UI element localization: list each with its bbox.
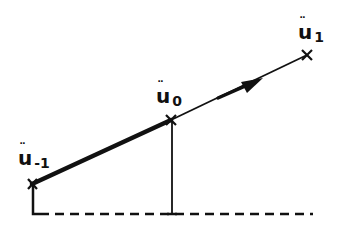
thick-segment-u-minus-1-to-u-0 (32, 120, 171, 184)
extrapolation-diagram (0, 0, 340, 252)
vertical-line-u-minus-1 (33, 186, 40, 214)
arrowhead-icon (241, 78, 263, 93)
cross-marker-u-1 (302, 50, 312, 60)
label-u-minus-1: ¨ u-1 (18, 148, 50, 168)
label-u-0: ¨ u0 (156, 86, 182, 106)
label-u-1: ¨ u1 (298, 22, 324, 42)
